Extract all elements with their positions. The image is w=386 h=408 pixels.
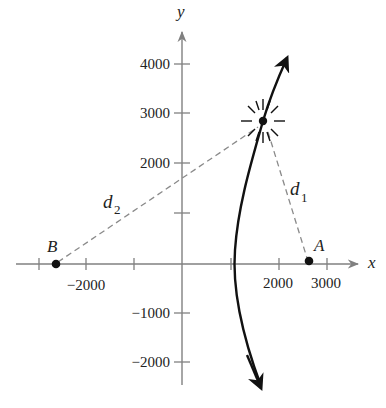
y-tick-label-2000: 2000 (140, 155, 170, 171)
x-tick-label-neg2000: −2000 (67, 277, 105, 293)
y-axis-label: y (175, 2, 185, 21)
hyperbola-diagram: −2000 2000 3000 x 4000 3000 2000 −1000 −… (0, 0, 386, 408)
hyperbola-curve (234, 58, 287, 386)
svg-text:2: 2 (114, 202, 121, 217)
d2-line (58, 127, 258, 262)
d2-label: d 2 (103, 191, 121, 217)
hyperbola-curve-bottom-arrow (247, 355, 261, 388)
point-a-label: A (313, 236, 325, 255)
point-p (259, 117, 267, 125)
y-axis: 4000 3000 2000 −1000 −2000 y (132, 2, 190, 385)
svg-text:d: d (103, 191, 113, 212)
y-tick-label-neg2000: −2000 (132, 354, 170, 370)
y-tick-label-neg1000: −1000 (132, 305, 170, 321)
point-b-label: B (47, 237, 58, 256)
x-axis: −2000 2000 3000 x (16, 253, 376, 293)
point-a (305, 257, 314, 266)
y-tick-label-3000: 3000 (140, 105, 170, 121)
x-tick-label-2000: 2000 (263, 275, 293, 291)
svg-text:d: d (290, 178, 300, 199)
svg-text:1: 1 (301, 190, 308, 205)
x-tick-label-3000: 3000 (311, 275, 341, 291)
diagram-canvas: −2000 2000 3000 x 4000 3000 2000 −1000 −… (0, 0, 386, 408)
point-b (52, 260, 61, 269)
y-tick-label-4000: 4000 (140, 56, 170, 72)
d1-label: d 1 (290, 178, 308, 205)
x-axis-label: x (367, 253, 376, 272)
